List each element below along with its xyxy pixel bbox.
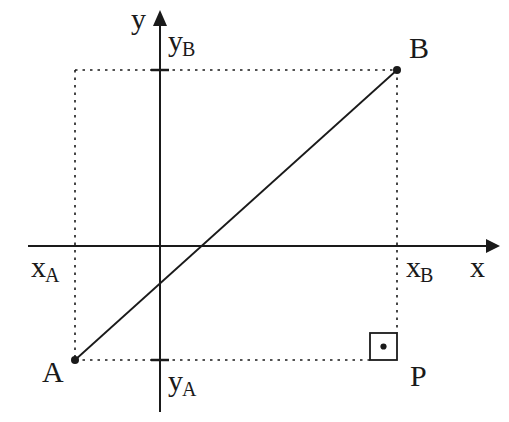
tick-label-y-a: yA	[168, 366, 197, 396]
segment-ab	[75, 70, 397, 360]
tick-label-y-b-sub: B	[182, 38, 195, 60]
point-label-b: B	[409, 33, 429, 63]
x-axis-label: x	[470, 252, 485, 282]
point-marker-a	[71, 356, 79, 364]
tick-label-y-a-sub: A	[182, 378, 196, 400]
point-label-p: P	[410, 361, 427, 391]
geometry-diagram: y x yB yA xA xB A B P	[0, 0, 509, 422]
tick-label-x-b: xB	[406, 252, 434, 282]
y-axis-arrowhead	[153, 10, 167, 26]
tick-label-x-a-sub: A	[45, 264, 59, 286]
tick-label-x-a-base: x	[31, 250, 46, 283]
tick-label-x-b-sub: B	[420, 264, 433, 286]
tick-label-y-b-base: y	[168, 24, 183, 57]
tick-label-x-b-base: x	[406, 250, 421, 283]
x-axis-arrowhead	[486, 239, 500, 253]
tick-label-y-a-base: y	[168, 364, 183, 397]
point-marker-b	[393, 66, 401, 74]
right-angle-square	[370, 333, 397, 360]
y-axis-label: y	[131, 4, 146, 34]
diagram-canvas	[0, 0, 509, 422]
point-label-a: A	[42, 357, 64, 387]
tick-label-y-b: yB	[168, 26, 196, 56]
tick-label-x-a: xA	[31, 252, 60, 282]
right-angle-center-dot	[380, 343, 386, 349]
